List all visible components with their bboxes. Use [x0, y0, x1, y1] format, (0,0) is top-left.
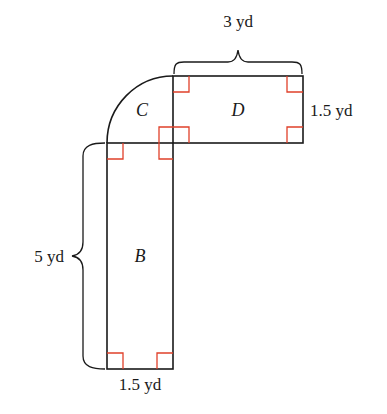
- region-d-label: D: [231, 100, 245, 120]
- right-height-label: 1.5 yd: [310, 101, 353, 120]
- left-height-label: 5 yd: [34, 247, 64, 266]
- right-angle-icon: [157, 353, 173, 369]
- top-width-label: 3 yd: [223, 12, 253, 31]
- region-b-label: B: [135, 246, 146, 266]
- right-angle-icon: [173, 127, 189, 143]
- right-angle-icon: [107, 353, 123, 369]
- top-brace-icon: [174, 50, 302, 74]
- right-angle-icon: [173, 76, 189, 92]
- bottom-width-label: 1.5 yd: [119, 375, 162, 394]
- right-angle-icon: [287, 76, 303, 92]
- region-c-label: C: [136, 100, 149, 120]
- right-angle-icon: [107, 143, 123, 159]
- composite-figure: 3 yd 1.5 yd 5 yd 1.5 yd C D B: [0, 0, 387, 414]
- right-angle-icon: [159, 127, 173, 143]
- left-brace-icon: [72, 143, 105, 369]
- right-angle-icon: [287, 127, 303, 143]
- right-angle-icon: [159, 143, 173, 159]
